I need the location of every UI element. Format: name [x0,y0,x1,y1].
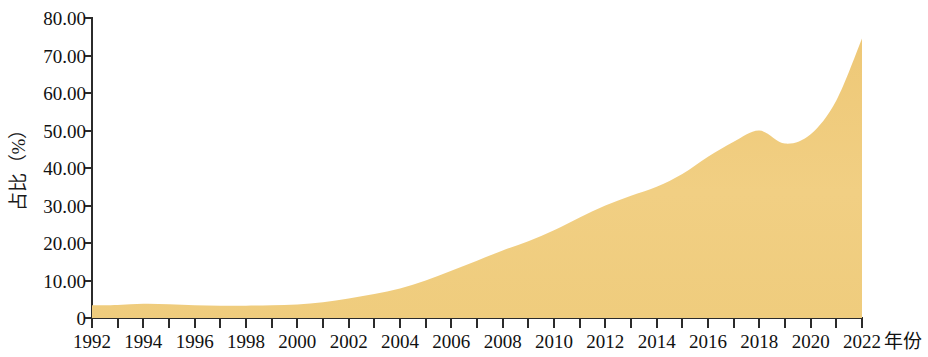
x-axis-tick-mark [91,319,93,328]
x-axis-tick-mark [476,319,478,328]
x-axis-tick-mark [733,319,735,328]
x-axis-tick-mark [168,319,170,328]
x-axis-tick-mark [117,319,119,328]
x-axis-tick-mark [784,319,786,328]
y-axis-tick-labels: 010.0020.0030.0040.0050.0060.0070.0080.0… [22,0,86,357]
x-axis-tick-label: 1996 [176,332,214,351]
x-axis-tick-label: 2006 [432,332,470,351]
x-axis-tick-label: 2022 [843,332,881,351]
x-axis-tick-mark [681,319,683,328]
y-axis-tick-label: 10.00 [43,271,86,290]
x-axis-tick-mark [296,319,298,328]
x-axis-tick-mark [553,319,555,328]
x-axis-tick-label: 2012 [586,332,624,351]
area-fill-path [92,39,862,318]
x-axis-tick-mark [399,319,401,328]
y-axis-tick-label: 40.00 [43,159,86,178]
x-axis-tick-mark [861,319,863,328]
x-axis-tick-mark [835,319,837,328]
x-axis-tick-label: 2018 [740,332,778,351]
x-axis-tick-label: 1994 [124,332,162,351]
x-axis-tick-mark [604,319,606,328]
x-axis-tick-mark [656,319,658,328]
x-axis-tick-label: 2008 [484,332,522,351]
x-axis-tick-mark [810,319,812,328]
y-axis-tick-label: 60.00 [43,84,86,103]
y-axis-tick-label: 30.00 [43,196,86,215]
x-axis-tick-mark [579,319,581,328]
x-axis-tick-label: 2014 [638,332,676,351]
x-axis-tick-label: 2016 [689,332,727,351]
area-chart: 占比（%） 010.0020.0030.0040.0050.0060.0070.… [0,0,928,357]
x-axis-tick-mark [373,319,375,328]
x-axis-tick-mark [527,319,529,328]
y-axis-tick-label: 70.00 [43,46,86,65]
y-axis-tick-label: 80.00 [43,9,86,28]
x-axis-tick-label: 1992 [73,332,111,351]
x-axis-tick-mark [630,319,632,328]
x-axis-tick-mark [707,319,709,328]
x-axis-tick-mark [450,319,452,328]
area-series-svg [92,18,862,318]
x-axis-tick-label: 2010 [535,332,573,351]
x-axis-tick-mark [502,319,504,328]
plot-area [92,18,862,318]
x-axis-tick-mark [425,319,427,328]
x-axis-tick-mark [142,319,144,328]
x-axis-tick-label: 2000 [278,332,316,351]
x-axis-tick-label: 1998 [227,332,265,351]
x-axis-tick-mark [271,319,273,328]
x-axis-tick-mark [322,319,324,328]
x-axis-tick-label: 2002 [330,332,368,351]
x-axis-tick-label: 2004 [381,332,419,351]
x-axis-tick-mark [348,319,350,328]
y-axis-tick-label: 50.00 [43,121,86,140]
x-axis-tick-mark [219,319,221,328]
x-axis-tick-label: 2020 [792,332,830,351]
x-axis-tick-mark [245,319,247,328]
x-axis-tick-mark [758,319,760,328]
x-axis-title: 年份 [884,332,922,351]
y-axis-tick-label: 20.00 [43,234,86,253]
x-axis-tick-mark [194,319,196,328]
